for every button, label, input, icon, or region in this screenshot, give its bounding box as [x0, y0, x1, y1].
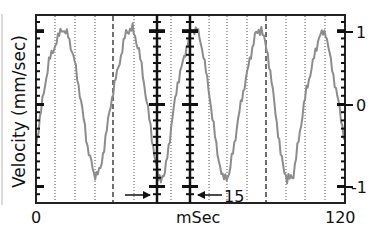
y-tick-0: 0 — [356, 96, 366, 115]
y-axis-label: Velocity (mm/sec) — [9, 35, 29, 188]
x-axis-label: mSec — [176, 208, 220, 227]
x-tick-0: 0 — [31, 208, 41, 227]
interval-arrows — [125, 191, 222, 199]
interval-label: 15 — [224, 187, 244, 206]
tick-axis — [36, 22, 44, 194]
x-tick-120: 120 — [325, 208, 356, 227]
arrow-left-icon — [197, 191, 205, 199]
tick-axis — [182, 15, 198, 203]
y-tick-1: 1 — [356, 23, 366, 42]
velocity-chart: 15 1 0 -1 0 120 mSec Velocity (mm/sec) — [0, 0, 379, 237]
arrow-right-icon — [143, 191, 151, 199]
y-tick-neg1: -1 — [351, 178, 367, 197]
tick-axis — [149, 15, 165, 203]
